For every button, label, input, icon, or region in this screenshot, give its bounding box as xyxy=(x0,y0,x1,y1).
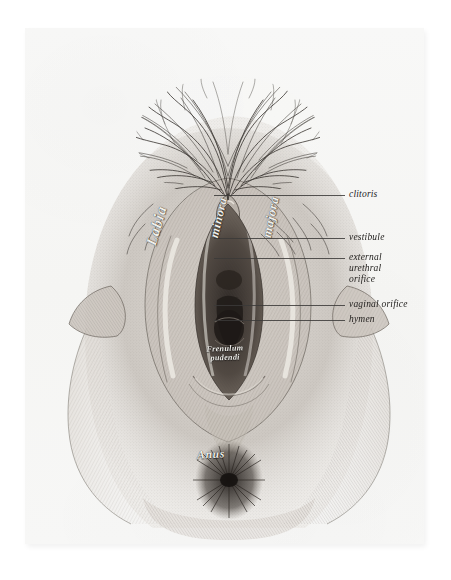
callout-label-hymen: hymen xyxy=(349,314,375,325)
callout-label-vestibule: vestibule xyxy=(349,232,385,243)
leader-line-external-urethral-orifice xyxy=(214,258,345,259)
leader-line-clitoris xyxy=(214,195,345,196)
callout-label-clitoris: clitoris xyxy=(349,189,378,200)
leader-line-vestibule xyxy=(214,238,345,239)
screenshot-canvas: clitoris vestibule external urethral ori… xyxy=(0,0,451,580)
callout-label-vaginal-orifice: vaginal orifice xyxy=(349,299,408,310)
engraving-plate: clitoris vestibule external urethral ori… xyxy=(25,28,424,544)
leader-line-hymen xyxy=(214,320,345,321)
figure-area: clitoris vestibule external urethral ori… xyxy=(25,28,424,544)
callout-label-external-urethral-orifice: external urethral orifice xyxy=(349,252,382,286)
anatomical-engraving-illustration xyxy=(25,28,424,544)
leader-line-vaginal-orifice xyxy=(214,305,345,306)
